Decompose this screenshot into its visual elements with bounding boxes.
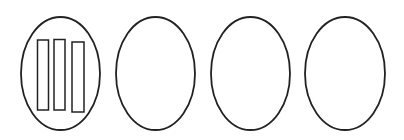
ellipse-diagram bbox=[0, 0, 404, 140]
background bbox=[0, 0, 404, 140]
